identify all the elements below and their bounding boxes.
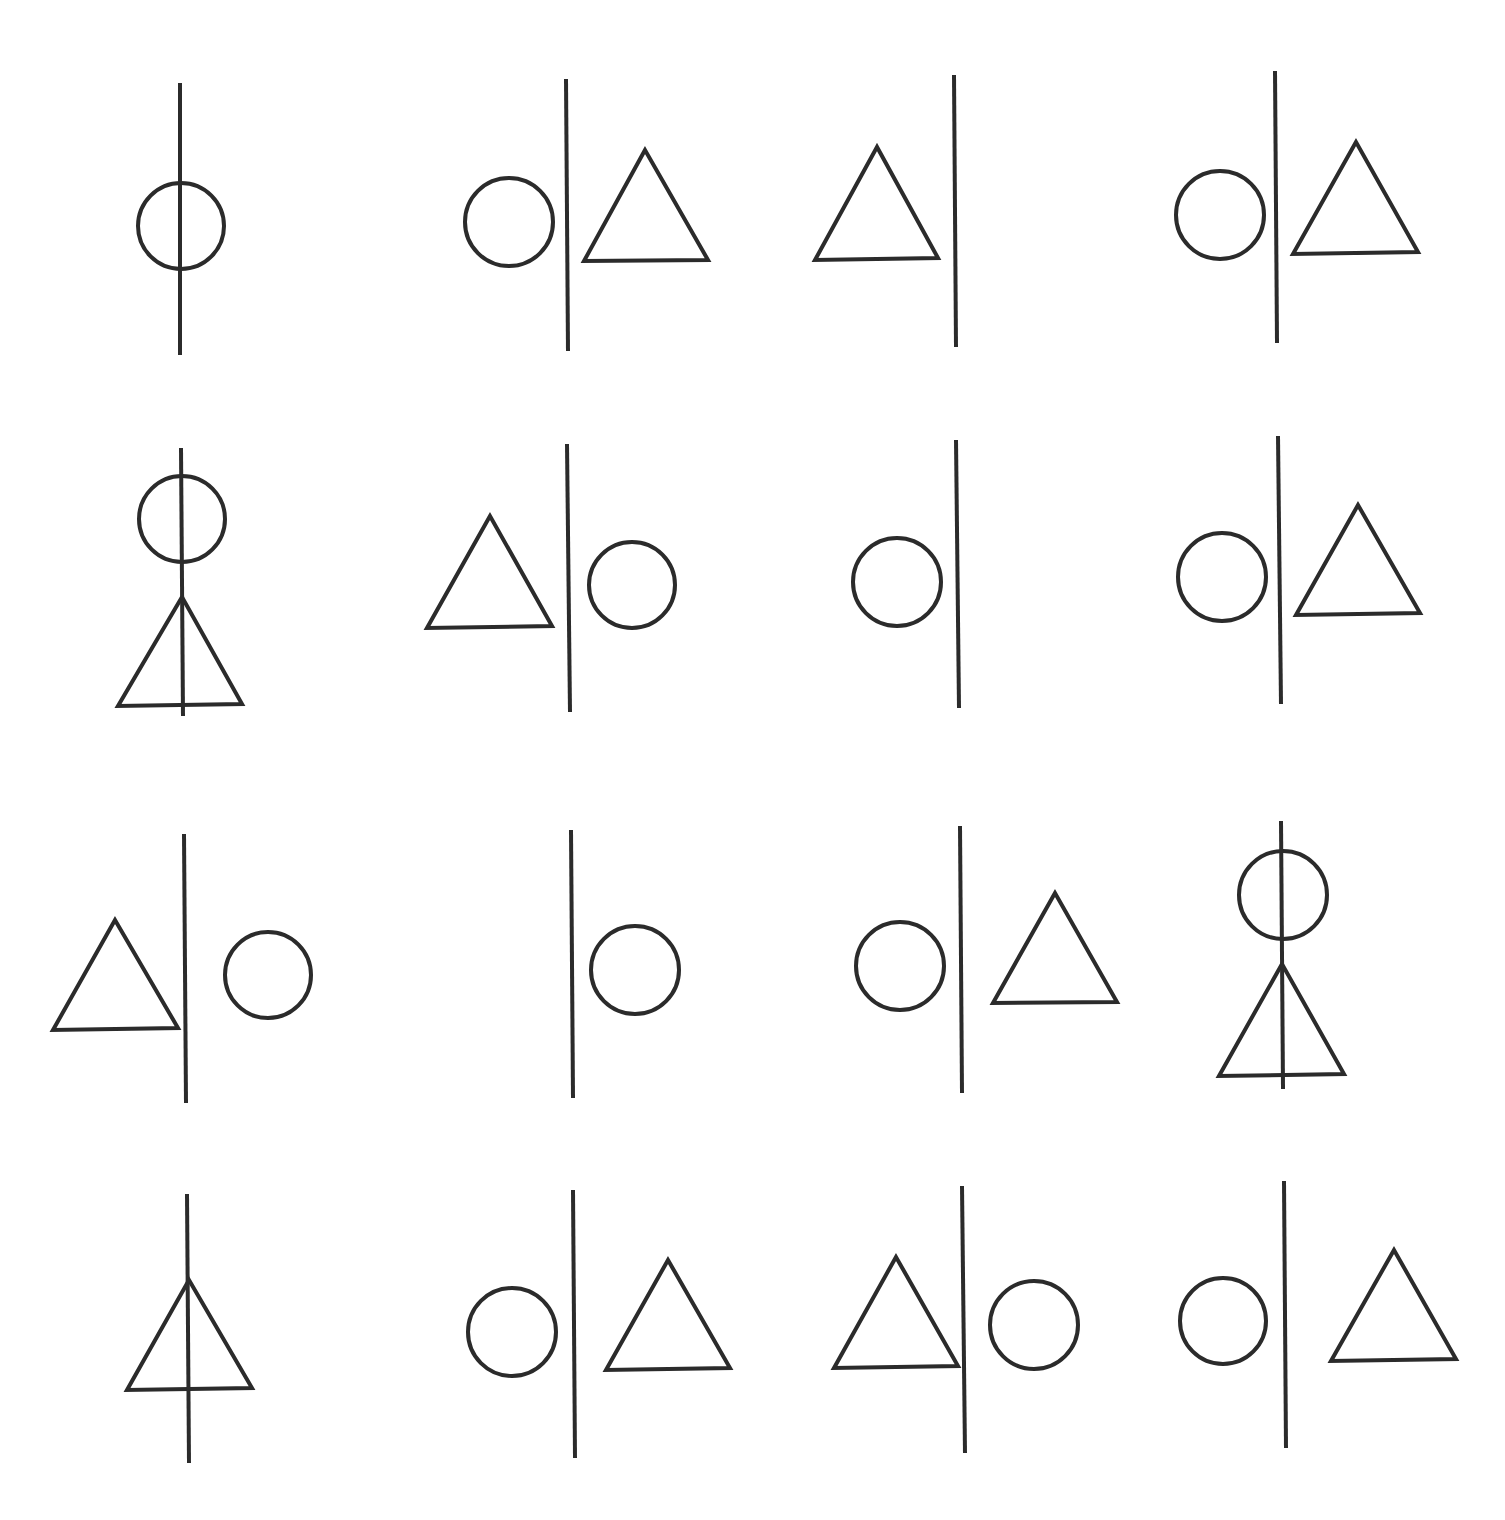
vertical-line xyxy=(962,1186,965,1453)
figure-cell-r4c2 xyxy=(468,1190,730,1458)
circle-shape xyxy=(589,542,675,628)
vertical-line xyxy=(566,79,568,351)
vertical-line xyxy=(960,826,962,1093)
vertical-line xyxy=(187,1194,189,1463)
figure-cell-r4c1 xyxy=(127,1194,252,1463)
figure-cell-r3c4 xyxy=(1219,821,1344,1089)
vertical-line xyxy=(1275,71,1277,343)
circle-shape xyxy=(1176,171,1264,259)
vertical-line xyxy=(1284,1181,1286,1448)
circle-shape xyxy=(990,1281,1078,1369)
triangle-shape xyxy=(584,150,708,261)
triangle-shape xyxy=(427,516,552,628)
circle-shape xyxy=(1178,533,1266,621)
circle-shape xyxy=(138,183,224,269)
vertical-line xyxy=(184,834,186,1103)
figure-cell-r2c3 xyxy=(853,440,959,708)
triangle-shape xyxy=(53,920,178,1030)
figure-cell-r2c4 xyxy=(1178,436,1420,704)
vertical-line xyxy=(1281,821,1283,1089)
triangle-shape xyxy=(118,597,242,706)
triangle-shape xyxy=(834,1257,958,1368)
circle-shape xyxy=(1239,851,1327,939)
triangle-shape xyxy=(1331,1250,1456,1361)
figure-cell-r2c1 xyxy=(118,448,242,716)
figure-cell-r4c3 xyxy=(834,1186,1078,1453)
circle-shape xyxy=(139,476,225,562)
vertical-line xyxy=(571,830,573,1098)
triangle-shape xyxy=(1293,142,1418,254)
circle-shape xyxy=(856,922,944,1010)
figure-cell-r1c3 xyxy=(815,75,956,347)
vertical-line xyxy=(956,440,959,708)
figure-cell-r3c3 xyxy=(856,826,1117,1093)
vertical-line xyxy=(573,1190,575,1458)
circle-shape xyxy=(468,1288,556,1376)
circle-shape xyxy=(1180,1278,1266,1364)
triangle-shape xyxy=(127,1280,252,1390)
figure-cell-r3c1 xyxy=(53,834,311,1103)
triangle-shape xyxy=(1296,505,1420,615)
triangle-shape xyxy=(606,1260,730,1370)
figure-cell-r1c1 xyxy=(138,83,224,355)
triangle-shape xyxy=(1219,964,1344,1076)
figure-cell-r4c4 xyxy=(1180,1181,1456,1448)
vertical-line xyxy=(954,75,956,347)
circle-shape xyxy=(853,538,941,626)
vertical-line xyxy=(1278,436,1281,704)
figure-cell-r3c2 xyxy=(571,830,679,1098)
figure-cell-r1c4 xyxy=(1176,71,1418,343)
triangle-shape xyxy=(993,893,1117,1003)
diagram-canvas xyxy=(0,0,1505,1520)
circle-shape xyxy=(465,178,553,266)
vertical-line xyxy=(181,448,183,716)
figure-cell-r2c2 xyxy=(427,444,675,712)
circle-shape xyxy=(591,926,679,1014)
triangle-shape xyxy=(815,147,938,260)
vertical-line xyxy=(567,444,570,712)
figure-cell-r1c2 xyxy=(465,79,708,351)
circle-shape xyxy=(225,932,311,1018)
